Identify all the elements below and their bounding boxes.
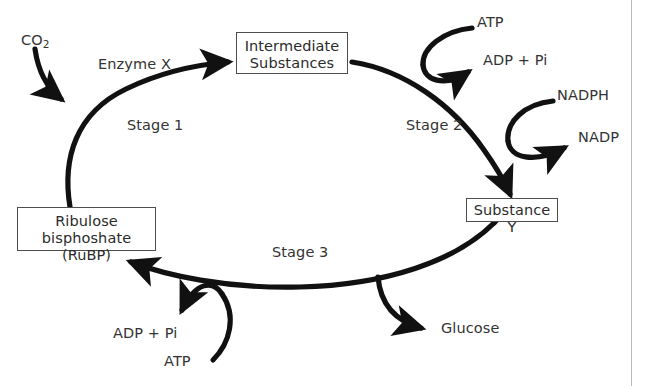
nadph-input-arrow	[508, 101, 553, 141]
node-substance-y-label: Substance Y	[467, 202, 557, 236]
atp-input-arrow-bottom	[213, 294, 230, 360]
node-ribulose-bisphosphate: Ribulose bisphoshate (RuBP)	[17, 207, 156, 251]
label-nadp: NADP	[578, 129, 619, 145]
adp-pi-output-arrow-top	[423, 65, 468, 81]
label-atp-stage3: ATP	[164, 353, 191, 369]
nadp-output-arrow	[508, 141, 564, 157]
label-glucose: Glucose	[441, 320, 499, 336]
node-rubp-line2: bisphoshate (RuBP)	[18, 230, 155, 264]
node-intermediate-line2: Substances	[237, 55, 347, 72]
co2-input-arrow	[35, 49, 61, 99]
label-adp-pi-stage2: ADP + Pi	[483, 52, 547, 68]
node-rubp-line1: Ribulose	[18, 213, 155, 230]
label-adp-pi-stage3: ADP + Pi	[113, 325, 177, 341]
label-atp-stage2: ATP	[477, 14, 504, 30]
adp-pi-output-arrow-bottom	[182, 285, 222, 310]
label-carbon-dioxide-text: CO	[21, 32, 43, 48]
label-carbon-dioxide-subscript: 2	[43, 38, 50, 50]
label-enzyme-x: Enzyme X	[98, 56, 171, 72]
node-intermediate-substances: Intermediate Substances	[236, 32, 348, 74]
atp-input-arrow-top	[423, 28, 472, 65]
stage1-main-arrow	[68, 62, 228, 207]
label-stage-2: Stage 2	[406, 117, 462, 133]
node-substance-y: Substance Y	[466, 198, 558, 222]
page-right-rule	[631, 0, 632, 386]
diagram-canvas: Intermediate Substances Ribulose bisphos…	[0, 0, 645, 386]
label-nadph: NADPH	[557, 87, 609, 103]
glucose-output-arrow	[378, 277, 421, 328]
label-stage-3: Stage 3	[272, 244, 328, 260]
label-stage-1: Stage 1	[127, 117, 183, 133]
node-intermediate-line1: Intermediate	[237, 38, 347, 55]
label-carbon-dioxide: CO2	[21, 32, 50, 48]
